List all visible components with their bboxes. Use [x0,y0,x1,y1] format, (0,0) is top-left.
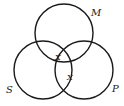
x-mark-center: X [54,53,61,62]
x-mark-s-p: X [66,73,73,82]
label-s: S [6,84,13,95]
label-p: P [111,83,119,94]
venn-diagram: M S P X X [0,0,124,106]
circle-p [55,41,113,99]
circle-m [35,4,93,62]
label-m: M [90,7,102,18]
